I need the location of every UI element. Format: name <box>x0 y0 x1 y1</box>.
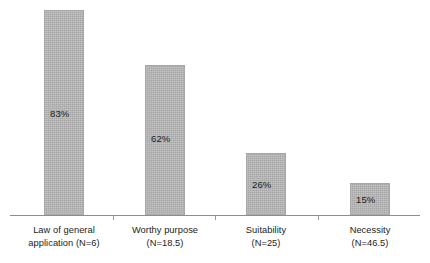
plot-area: 83% 62% 26% 15% <box>0 0 430 216</box>
bar-value-necessity: 15% <box>356 194 375 205</box>
category-label-worthy-purpose: Worthy purpose (N=18.5) <box>115 224 215 249</box>
category-label-line1: Law of general <box>33 225 95 235</box>
bar-value-law-of-general-application: 83% <box>50 108 69 119</box>
bar-value-worthy-purpose: 62% <box>151 133 170 144</box>
x-axis-category-labels: Law of general application (N=6) Worthy … <box>0 220 430 263</box>
category-label-line2: (N=18.5) <box>115 237 215 250</box>
category-label-line1: Worthy purpose <box>132 225 198 235</box>
category-label-line2: application (N=6) <box>14 237 114 250</box>
category-label-line2: (N=25) <box>216 237 316 250</box>
category-label-necessity: Necessity (N=46.5) <box>320 224 420 249</box>
category-label-law-of-general-application: Law of general application (N=6) <box>14 224 114 249</box>
category-label-suitability: Suitability (N=25) <box>216 224 316 249</box>
bar-chart: 83% 62% 26% 15% Law of general applicati… <box>0 0 430 263</box>
category-label-line1: Necessity <box>350 225 391 235</box>
bar-value-suitability: 26% <box>252 179 271 190</box>
category-label-line1: Suitability <box>246 225 286 235</box>
category-label-line2: (N=46.5) <box>320 237 420 250</box>
